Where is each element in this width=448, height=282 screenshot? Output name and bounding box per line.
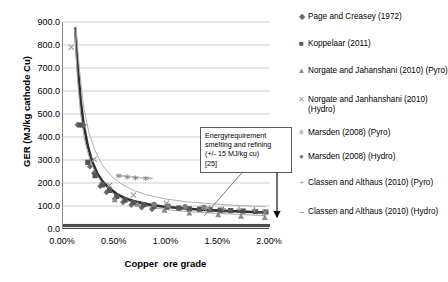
x-axis-tick-label: 1.00% — [141, 236, 191, 246]
legend-item-label: Page and Creasey (1972) — [308, 12, 448, 22]
energy-requirement-callout: Energyrequirementsmelting and refining(+… — [200, 127, 292, 173]
y-axis-tick-label: 400.0 — [20, 133, 60, 142]
legend-item-label: Norgate and Jahanshani (2010) (Pyro) — [308, 66, 448, 76]
legend-marker-icon: – — [296, 207, 307, 217]
legend-item[interactable]: ✳Marsden (2008) (Pyro) — [296, 128, 448, 138]
legend-marker-icon: ■ — [296, 39, 307, 49]
legend-item[interactable]: ✕Norgate and Janhanshani (2010) (Hydro) — [296, 95, 448, 114]
x-axis-tick-label: 1.50% — [192, 236, 242, 246]
legend-item-label: Marsden (2008) (Pyro) — [308, 128, 448, 138]
legend-item[interactable]: ●Marsden (2008) (Hydro) — [296, 152, 448, 162]
callout-line: Energyrequirement — [205, 131, 287, 140]
legend-item[interactable]: +Classen and Althaus (2010) (Pyro) — [296, 178, 448, 188]
y-axis-tick-label: 800.0 — [20, 41, 60, 50]
legend-item[interactable]: ▲Norgate and Jahanshani (2010) (Pyro) — [296, 66, 448, 76]
legend-marker-icon: ◆ — [296, 12, 307, 22]
legend-item-label: Marsden (2008) (Hydro) — [308, 152, 448, 162]
callout-line: (+/- 15 MJ/kg cu) — [205, 149, 287, 158]
legend-marker-icon: ✕ — [296, 95, 307, 105]
callout-line: smelting and refining — [205, 140, 287, 149]
x-axis-tick-label: 0.00% — [37, 236, 87, 246]
x-axis-title: Copper ore grade — [62, 258, 269, 269]
y-axis-tick-label: 300.0 — [20, 156, 60, 165]
legend-item[interactable]: ■Koppelaar (2011) — [296, 39, 448, 49]
y-axis-tick-label: 0.0 — [20, 225, 60, 234]
legend-marker-icon: ● — [296, 152, 307, 162]
legend-item-label: Koppelaar (2011) — [308, 39, 448, 49]
legend-item-label: Classen and Althaus (2010) (Hydro) — [308, 207, 448, 217]
y-axis-tick-label: 500.0 — [20, 110, 60, 119]
legend-marker-icon: + — [296, 178, 307, 188]
x-axis-tick-label: 0.50% — [89, 236, 139, 246]
y-axis-tick-label: 700.0 — [20, 64, 60, 73]
y-axis-tick-label: 600.0 — [20, 87, 60, 96]
legend-marker-icon: ✳ — [296, 128, 307, 138]
legend-item-label: Norgate and Janhanshani (2010) (Hydro) — [308, 95, 448, 114]
legend-marker-icon: ▲ — [296, 66, 307, 76]
legend-item[interactable]: ◆Page and Creasey (1972) — [296, 12, 448, 22]
x-axis-tick-label: 2.00% — [244, 236, 294, 246]
y-axis-tick-label: 900.0 — [20, 18, 60, 27]
legend-item[interactable]: –Classen and Althaus (2010) (Hydro) — [296, 207, 448, 217]
y-axis-tick-label: 200.0 — [20, 179, 60, 188]
legend-item-label: Classen and Althaus (2010) (Pyro) — [308, 178, 448, 188]
y-axis-tick-label: 100.0 — [20, 202, 60, 211]
callout-line: [25] — [205, 159, 287, 168]
